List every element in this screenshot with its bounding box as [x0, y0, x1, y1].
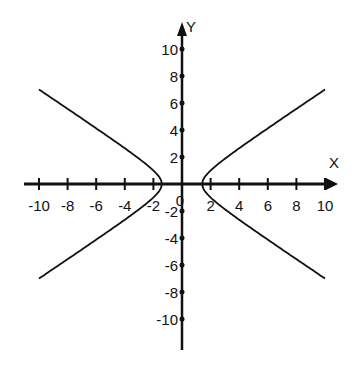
y-tick	[180, 47, 185, 52]
y-tick-label: 4	[170, 122, 178, 139]
y-axis-label: Y	[186, 18, 196, 35]
y-tick	[180, 209, 185, 214]
y-tick-label: -8	[165, 284, 178, 301]
hyperbola-plot: -10-8-6-4-2246810108642-2-4-6-8-100 X Y	[0, 0, 356, 366]
x-tick-label: -10	[28, 197, 50, 214]
x-tick-label: 10	[317, 197, 334, 214]
x-tick-label: -8	[61, 197, 74, 214]
y-tick	[180, 155, 185, 160]
x-axis-label: X	[329, 154, 339, 171]
axes	[24, 22, 338, 350]
y-tick	[180, 74, 185, 79]
y-tick	[180, 263, 185, 268]
x-tick-label: 4	[235, 197, 243, 214]
x-tick-label: -4	[118, 197, 131, 214]
x-tick-label: -6	[90, 197, 103, 214]
y-tick	[180, 290, 185, 295]
x-tick-label: 2	[206, 197, 214, 214]
y-tick-label: 2	[170, 149, 178, 166]
y-tick-label: -6	[165, 257, 178, 274]
y-tick-label: 6	[170, 95, 178, 112]
x-tick-label: 8	[292, 197, 300, 214]
origin-label: 0	[176, 192, 184, 209]
y-tick-label: -10	[156, 311, 178, 328]
x-tick-label: -2	[147, 197, 160, 214]
x-tick-label: 6	[264, 197, 272, 214]
y-tick	[180, 236, 185, 241]
y-tick-label: 8	[170, 68, 178, 85]
y-tick	[180, 128, 185, 133]
y-tick-label: -4	[165, 230, 178, 247]
y-tick	[180, 101, 185, 106]
y-tick-label: 10	[161, 41, 178, 58]
x-axis-arrow-icon	[326, 178, 338, 190]
y-tick	[180, 317, 185, 322]
